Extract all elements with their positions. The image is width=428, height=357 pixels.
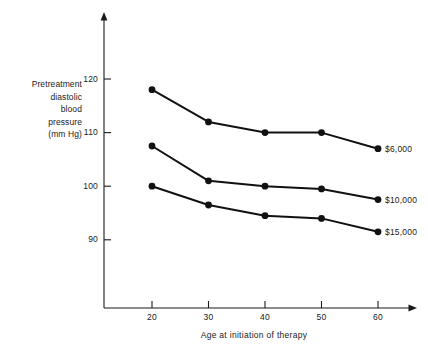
y-axis-title-line-1: diastolic	[8, 91, 82, 104]
y-tick-label-90: 90	[62, 234, 98, 244]
x-axis-arrow-icon	[409, 305, 418, 312]
series-2-point-4	[375, 228, 382, 235]
y-tick-label-120: 120	[62, 74, 98, 84]
x-tick-label-60: 60	[363, 312, 393, 322]
x-tick-label-50: 50	[307, 312, 337, 322]
series-2-point-3	[318, 215, 325, 222]
y-axis-arrow-icon	[101, 12, 108, 21]
chart-figure: Pretreatmentdiastolicbloodpressure(mm Hg…	[0, 0, 428, 357]
chart-plot-area	[0, 0, 428, 357]
series-1-point-3	[318, 186, 325, 193]
y-tick-label-100: 100	[62, 181, 98, 191]
series-1-point-2	[262, 183, 269, 190]
series-label-1: $10,000	[385, 195, 417, 205]
series-2-point-1	[205, 202, 212, 209]
x-tick-label-20: 20	[137, 312, 167, 322]
x-axis-title: Age at initiation of therapy	[104, 330, 404, 340]
data-series-group	[149, 86, 382, 235]
x-axis-ticks	[152, 301, 378, 308]
series-label-0: $6,000	[385, 144, 412, 154]
series-0-point-0	[149, 86, 156, 93]
series-line-0	[152, 90, 378, 149]
series-1-point-4	[375, 196, 382, 203]
series-1-point-0	[149, 143, 156, 150]
series-label-2: $15,000	[385, 227, 417, 237]
series-1-point-1	[205, 177, 212, 184]
series-0-point-3	[318, 129, 325, 136]
x-tick-label-40: 40	[250, 312, 280, 322]
y-axis-title-line-2: blood	[8, 103, 82, 116]
series-0-point-1	[205, 119, 212, 126]
series-line-1	[152, 146, 378, 200]
series-2-point-0	[149, 183, 156, 190]
y-tick-label-110: 110	[62, 127, 98, 137]
axes-group	[101, 12, 417, 311]
series-2-point-2	[262, 212, 269, 219]
series-0-point-2	[262, 129, 269, 136]
series-0-point-4	[375, 145, 382, 152]
x-tick-label-30: 30	[194, 312, 224, 322]
y-axis-ticks	[104, 79, 111, 240]
